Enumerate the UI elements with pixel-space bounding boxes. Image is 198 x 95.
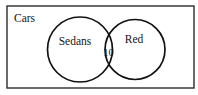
red-label: Red bbox=[125, 33, 144, 45]
universe-label: Cars bbox=[14, 12, 36, 24]
sedans-label: Sedans bbox=[59, 35, 92, 47]
intersection-count-label: 10 bbox=[103, 47, 114, 58]
venn-diagram-figure: Cars Sedans Red 10 bbox=[0, 0, 198, 95]
